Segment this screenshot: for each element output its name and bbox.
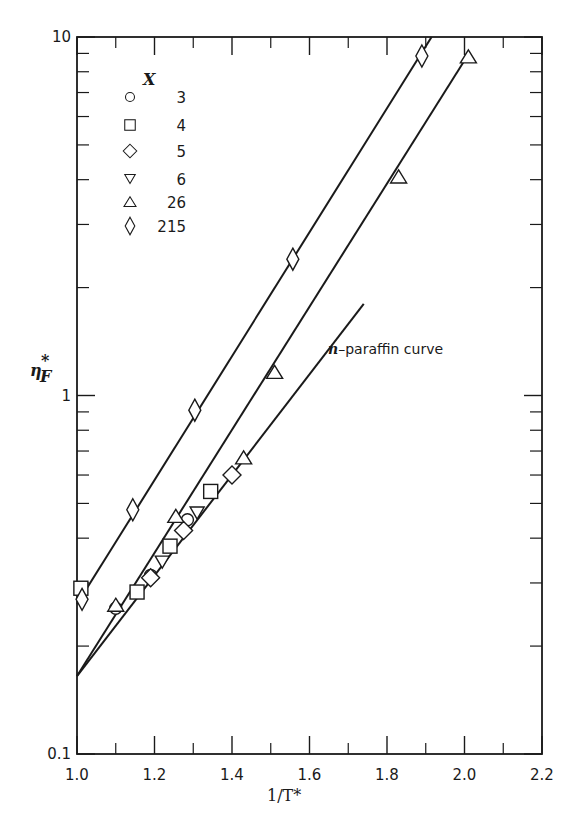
legend-marker-tall-diamond <box>125 217 135 235</box>
n-paraffin-curve-line <box>77 304 364 676</box>
x-tick-label: 1.6 <box>298 766 322 784</box>
x-tick-label: 1.2 <box>143 766 167 784</box>
n-paraffin-annotation-text: –paraffin curve <box>338 341 443 357</box>
n-paraffin-annotation: n–paraffin curve <box>328 341 443 357</box>
x-axis-ticks: 1.01.21.41.61.82.02.2 <box>65 37 554 784</box>
y-tick-label: 1 <box>61 387 71 405</box>
n-paraffin-annotation-italic: n <box>328 341 338 357</box>
x-tick-label: 2.2 <box>530 766 554 784</box>
data-point-x4 <box>204 484 218 498</box>
data-point-x26 <box>391 170 407 183</box>
y-tick-label: 10 <box>52 28 71 46</box>
y-tick-label: 0.1 <box>47 745 71 763</box>
x-tick-label: 1.8 <box>375 766 399 784</box>
data-point-x6 <box>155 556 169 568</box>
data-point-x26 <box>460 50 476 63</box>
data-point-x215 <box>189 399 201 421</box>
data-point-x4 <box>163 539 177 553</box>
legend-label: 26 <box>167 194 186 212</box>
legend-entry-6 <box>125 175 136 184</box>
legend-label: 5 <box>176 143 186 161</box>
legend-title: X <box>142 70 156 89</box>
y-axis-title: η * F <box>30 351 53 386</box>
legend-marker-square <box>125 120 136 131</box>
x-axis-title: 1/T* <box>267 786 301 805</box>
legend-marker-triangle-down <box>125 175 136 184</box>
legend-entry-5 <box>123 144 137 158</box>
data-point-x4 <box>130 585 144 599</box>
legend-entry-215 <box>125 217 135 235</box>
chart: 1.01.21.41.61.82.02.2 0.1110 345626215 X… <box>0 0 582 833</box>
x-tick-label: 2.0 <box>453 766 477 784</box>
legend-label: 215 <box>157 218 186 236</box>
legend-entry-26 <box>124 197 136 207</box>
x-tick-label: 1.0 <box>65 766 89 784</box>
x-tick-label: 1.4 <box>220 766 244 784</box>
legend-marker-diamond <box>123 144 137 158</box>
legend-marker-circle <box>126 93 135 102</box>
legend-entry-3 <box>126 93 135 102</box>
legend: 345626215 <box>123 89 186 236</box>
y-axis-ticks: 0.1110 <box>47 28 542 763</box>
data-point-x5 <box>223 466 241 484</box>
legend-label: 6 <box>176 171 186 189</box>
legend-entry-4 <box>125 120 136 131</box>
data-point-x215 <box>127 499 139 521</box>
plot-border <box>77 37 542 754</box>
plot-frame <box>77 37 542 754</box>
y-axis-title-sub: F <box>39 367 53 386</box>
data-point-x215 <box>416 45 428 67</box>
legend-label: 3 <box>176 89 186 107</box>
legend-marker-triangle-up <box>124 197 136 207</box>
legend-label: 4 <box>176 117 186 135</box>
